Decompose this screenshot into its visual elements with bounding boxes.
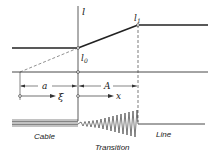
transition-slope-line xyxy=(78,25,138,48)
dimension-A: A xyxy=(79,81,137,91)
cable-caption: Cable xyxy=(34,132,55,141)
svg-text:a: a xyxy=(42,81,47,91)
svg-text:x: x xyxy=(116,91,121,101)
l0-label: l0 xyxy=(81,53,88,64)
l-axis-label: l xyxy=(82,6,85,17)
l1-label: l1 xyxy=(134,13,141,24)
cable-bundle xyxy=(12,120,78,126)
coordinate-x: x xyxy=(77,91,121,101)
cable-line-transition-diagram: l l0 l1 a A ξ xyxy=(0,0,220,156)
coordinate-xi: ξ xyxy=(19,91,64,102)
slope-extension-dashed xyxy=(20,48,78,72)
line-caption: Line xyxy=(156,130,172,139)
svg-text:A: A xyxy=(103,81,111,91)
transition-spring xyxy=(78,110,138,137)
dimension-a: a xyxy=(20,81,77,91)
svg-text:ξ: ξ xyxy=(58,91,64,102)
transition-caption: Transition xyxy=(95,143,130,152)
